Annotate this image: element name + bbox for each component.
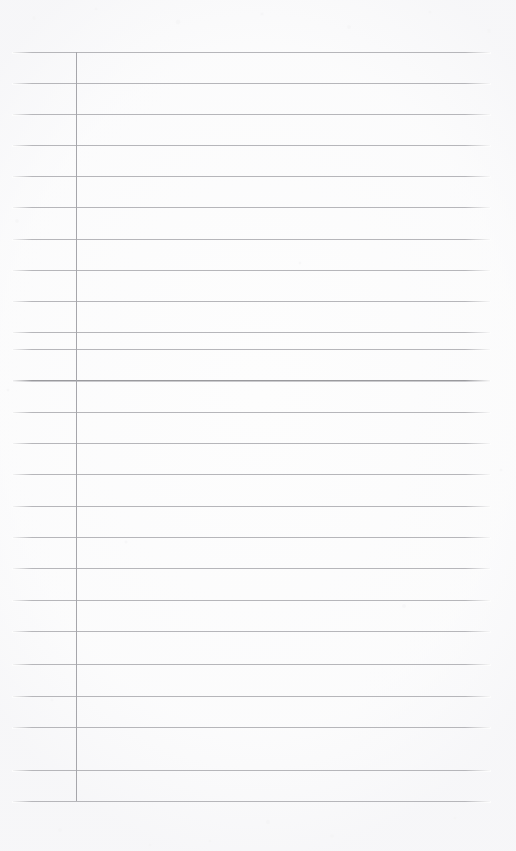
rule-line (13, 332, 490, 333)
rule-line (13, 412, 490, 413)
rule-line (13, 270, 490, 271)
rule-line (13, 696, 490, 697)
rule-line (13, 600, 490, 601)
rule-line (13, 207, 490, 208)
rule-line (13, 664, 490, 665)
rule-line (13, 83, 490, 84)
rule-line (13, 52, 490, 53)
rule-line (13, 506, 490, 507)
rule-line (13, 801, 490, 802)
rule-line (13, 301, 490, 302)
rule-line (13, 239, 490, 240)
notepad-page (0, 0, 516, 851)
rule-line (13, 474, 490, 475)
ruled-lines-layer (0, 0, 516, 851)
rule-line (13, 631, 490, 632)
rule-line (13, 349, 490, 350)
margin-rule-vertical (76, 52, 77, 801)
rule-line (13, 537, 490, 538)
rule-line (13, 114, 490, 115)
rule-line (13, 770, 490, 771)
rule-line-emphasis (13, 380, 490, 381)
rule-line (13, 145, 490, 146)
rule-line (13, 568, 490, 569)
rule-line (13, 443, 490, 444)
rule-line (13, 727, 490, 728)
rule-line (13, 176, 490, 177)
